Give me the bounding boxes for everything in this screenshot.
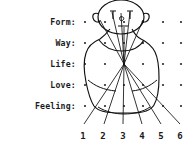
radiating-lines: [100, 12, 143, 64]
grid-dot: [84, 21, 86, 23]
diagram-root: Form: Way: Life: Love: Feeling:: [0, 0, 186, 145]
column-number-labels: 1 2 3 4 5 6: [80, 131, 182, 141]
column-label-6: 6: [177, 131, 182, 141]
leader-line-4: [124, 64, 142, 124]
grid-dot: [180, 21, 182, 23]
column-label-1: 1: [80, 131, 85, 141]
leader-lines: [84, 64, 180, 124]
grid-dot: [162, 21, 164, 23]
grid-dot: [84, 105, 86, 107]
dot-grid-row-feeling: [84, 105, 182, 107]
grid-dot: [180, 84, 182, 86]
grid-dot: [162, 84, 164, 86]
grid-dot: [104, 84, 106, 86]
column-label-2: 2: [100, 131, 105, 141]
grid-dot: [180, 63, 182, 65]
grid-dot: [104, 42, 106, 44]
grid-dot: [123, 21, 125, 23]
leader-line-5: [124, 64, 161, 124]
dot-grid-row-love: [84, 84, 182, 86]
grid-dot: [180, 105, 182, 107]
leader-line-6: [124, 64, 180, 124]
grid-dot: [162, 42, 164, 44]
column-label-5: 5: [158, 131, 163, 141]
grid-dot: [162, 63, 164, 65]
grid-dot: [180, 42, 182, 44]
figure-drawing: 1 2 3 4 5 6: [0, 0, 186, 145]
leader-line-3: [123, 64, 124, 124]
collar-line: [99, 40, 144, 51]
leader-line-1: [84, 64, 124, 124]
grid-dot: [104, 63, 106, 65]
dot-grid-row-life: [84, 63, 182, 65]
grid-dot: [142, 63, 144, 65]
column-label-3: 3: [120, 131, 125, 141]
grid-dot: [84, 84, 86, 86]
grid-dot: [142, 105, 144, 107]
grid-dot: [104, 21, 106, 23]
column-label-4: 4: [139, 131, 145, 141]
ray-to-left-ear: [100, 20, 124, 64]
grid-dot: [84, 42, 86, 44]
leader-line-2: [104, 64, 124, 124]
grid-dot: [104, 105, 106, 107]
